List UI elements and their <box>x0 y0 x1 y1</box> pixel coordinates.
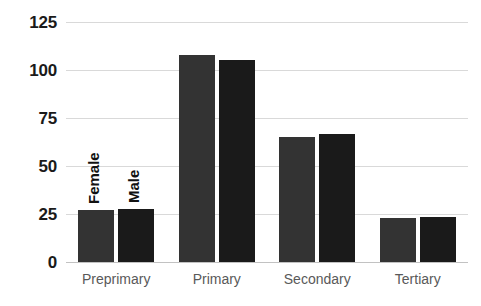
y-tick-label-100: 100 <box>0 62 57 79</box>
bar-chart: 0255075100125 FemaleMale PreprimaryPrima… <box>0 0 481 306</box>
bar-secondary-male <box>319 134 355 262</box>
gridline-50 <box>66 166 468 167</box>
bar-primary-female <box>179 55 215 262</box>
bar-preprimary-female <box>78 210 114 262</box>
x-tick-label-secondary: Secondary <box>284 272 351 286</box>
gridline-125 <box>66 22 468 23</box>
y-tick-label-125: 125 <box>0 14 57 31</box>
bar-tertiary-male <box>420 217 456 262</box>
y-tick-label-25: 25 <box>0 206 57 223</box>
bar-tertiary-female <box>380 218 416 262</box>
gridline-0 <box>66 262 468 263</box>
bar-primary-male <box>219 60 255 262</box>
x-tick-label-preprimary: Preprimary <box>82 272 150 286</box>
gridline-100 <box>66 70 468 71</box>
series-label-female: Female <box>86 152 101 204</box>
x-tick-label-tertiary: Tertiary <box>395 272 441 286</box>
y-tick-label-50: 50 <box>0 158 57 175</box>
y-tick-label-75: 75 <box>0 110 57 127</box>
y-tick-label-0: 0 <box>0 254 57 271</box>
bar-preprimary-male <box>118 209 154 262</box>
plot-area: FemaleMale <box>66 22 468 262</box>
bar-secondary-female <box>279 137 315 262</box>
x-tick-label-primary: Primary <box>193 272 241 286</box>
gridline-75 <box>66 118 468 119</box>
series-label-male: Male <box>126 170 141 203</box>
